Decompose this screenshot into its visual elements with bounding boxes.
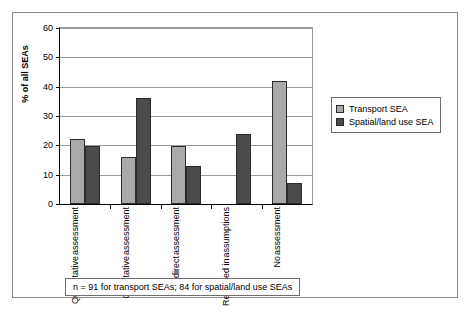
bar xyxy=(85,146,100,204)
x-category-label-line2: assessment xyxy=(121,207,131,255)
bar xyxy=(287,183,302,204)
y-gridline xyxy=(60,28,312,29)
bar xyxy=(171,146,186,204)
legend-item-label: Spatial/land use SEA xyxy=(349,117,434,127)
x-category-label-line2: assessment xyxy=(171,207,181,255)
x-category-label: Quantitativeassessment xyxy=(70,207,98,285)
bar xyxy=(121,157,136,204)
x-axis-category-labels: QuantitativeassessmentQualitativeassessm… xyxy=(59,207,313,285)
x-category-label: Qualitativeassessment xyxy=(121,207,149,285)
y-tick-mark xyxy=(56,57,60,58)
x-category-label: Indirectassessment xyxy=(171,207,199,285)
y-tick-mark xyxy=(56,175,60,176)
y-tick-label: 0 xyxy=(48,199,53,209)
chart-footnote: n = 91 for transport SEAs; 84 for spatia… xyxy=(65,278,300,296)
x-category-label: Noassessment xyxy=(272,207,300,285)
y-tick-mark xyxy=(56,28,60,29)
x-category-label-line1: No xyxy=(272,256,282,268)
y-tick-label: 30 xyxy=(43,111,53,121)
legend-item-label: Transport SEA xyxy=(349,104,408,114)
legend-item: Transport SEA xyxy=(336,102,434,115)
bar xyxy=(136,98,151,204)
x-category-label-line2: assumptions xyxy=(221,207,231,258)
legend-swatch-icon xyxy=(336,118,344,126)
bar xyxy=(236,134,251,204)
x-category-label: Reflected inassumptions xyxy=(221,207,249,285)
x-category-label-line2: assessment xyxy=(272,207,282,255)
y-tick-mark xyxy=(56,204,60,205)
chart-legend: Transport SEASpatial/land use SEA xyxy=(331,97,441,133)
y-axis-title: % of all SEAs xyxy=(20,14,30,134)
y-tick-mark xyxy=(56,116,60,117)
y-tick-mark xyxy=(56,87,60,88)
x-category-label-line2: assessment xyxy=(70,207,80,255)
y-tick-label: 10 xyxy=(43,170,53,180)
chart-figure: % of all SEAs 0102030405060 Quantitative… xyxy=(12,12,458,298)
y-tick-mark xyxy=(56,145,60,146)
y-tick-label: 20 xyxy=(43,140,53,150)
y-gridline xyxy=(60,57,312,58)
legend-item: Spatial/land use SEA xyxy=(336,115,434,128)
y-tick-label: 50 xyxy=(43,52,53,62)
y-tick-label: 60 xyxy=(43,23,53,33)
bar xyxy=(272,81,287,204)
plot-area: 0102030405060 xyxy=(59,27,313,205)
bar xyxy=(186,166,201,204)
legend-swatch-icon xyxy=(336,105,344,113)
y-tick-label: 40 xyxy=(43,82,53,92)
bar xyxy=(70,139,85,204)
